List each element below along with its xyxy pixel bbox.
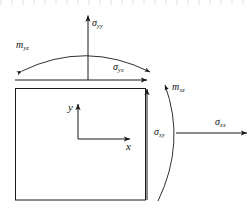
m-xz-moment-arc — [158, 85, 174, 201]
sigma-yy-label: σyy — [92, 18, 103, 28]
m-xz-label: mxz — [172, 82, 185, 92]
m-yz-label: myz — [16, 40, 29, 50]
m-xz-subscript: xz — [179, 86, 185, 93]
x-axis-label: x — [126, 141, 131, 152]
sigma-xy-subscript: xy — [159, 131, 165, 138]
sigma-yy-subscript: yy — [97, 22, 103, 29]
stress-element-figure: σyy σyx σxx σxy myz mxz y x — [0, 0, 251, 211]
sigma-yx-subscript: yx — [118, 66, 124, 73]
m-yz-moment-arc — [22, 56, 150, 72]
sigma-yx-label: σyx — [113, 62, 124, 72]
m-yz-subscript: yz — [23, 44, 29, 51]
sigma-xy-label: σxy — [154, 127, 165, 137]
figure-canvas — [0, 0, 251, 211]
y-axis-label: y — [68, 102, 73, 113]
sigma-xx-subscript: xx — [220, 121, 226, 128]
sigma-xx-label: σxx — [215, 117, 226, 127]
